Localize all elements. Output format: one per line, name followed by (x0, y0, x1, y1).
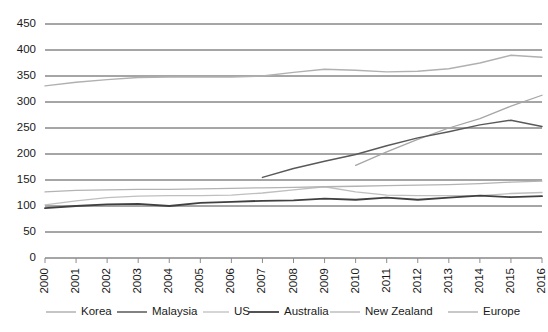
chart-canvas: 050100150200250300350400450 200020012002… (0, 0, 548, 332)
x-axis-tick-label: 2011 (380, 268, 392, 293)
x-axis-tick-label: 2012 (411, 268, 423, 294)
legend-label-korea: Korea (81, 305, 112, 317)
y-axis-labels-group: 050100150200250300350400450 (17, 17, 36, 263)
legend-label-australia: Australia (284, 305, 329, 317)
y-axis-tick-label: 300 (17, 95, 36, 107)
x-axis-tick-label: 2008 (287, 268, 299, 294)
x-axis-tick-label: 2003 (131, 268, 143, 294)
x-axis-tick-label: 2002 (100, 268, 112, 294)
x-axis-tick-label: 2009 (318, 268, 330, 294)
y-axis-tick-label: 350 (17, 69, 36, 81)
y-axis-tick-label: 100 (17, 199, 36, 211)
x-axis-tick-label: 2010 (349, 268, 361, 294)
y-axis-tick-label: 50 (23, 225, 36, 237)
y-axis-tick-label: 0 (30, 251, 36, 263)
gridlines-group (45, 24, 542, 258)
x-axis-tick-label: 2015 (504, 268, 516, 294)
x-axis-tick-label: 2013 (442, 268, 454, 294)
x-axis-tick-label: 2001 (69, 268, 81, 294)
series-line-korea (356, 95, 542, 165)
y-axis-tick-label: 150 (17, 173, 36, 185)
y-axis-tick-label: 250 (17, 121, 36, 133)
chart-legend: KoreaMalaysiaUSAustraliaNew ZealandEurop… (46, 305, 520, 317)
line-chart: 050100150200250300350400450 200020012002… (0, 0, 548, 332)
legend-label-europe: Europe (483, 305, 520, 317)
series-line-malaysia (262, 120, 542, 177)
y-axis-tick-label: 200 (17, 147, 36, 159)
legend-label-new-zealand: New Zealand (365, 305, 433, 317)
y-axis-tick-label: 450 (17, 17, 36, 29)
x-axis-tick-label: 2014 (473, 267, 485, 293)
legend-label-us: US (234, 305, 250, 317)
x-axis-tick-label: 2007 (255, 268, 267, 294)
series-group (45, 55, 542, 208)
x-axis-tick-label: 2016 (535, 268, 547, 294)
x-axis-labels-group: 2000200120022003200420052006200720082009… (38, 267, 547, 293)
legend-label-malaysia: Malaysia (152, 305, 198, 317)
x-axis-tick-label: 2000 (38, 268, 50, 294)
x-axis-tick-label: 2006 (224, 268, 236, 294)
y-axis-tick-label: 400 (17, 43, 36, 55)
x-axis-ticks-group (45, 258, 542, 263)
series-line-europe (45, 55, 542, 86)
x-axis-tick-label: 2005 (193, 268, 205, 294)
x-axis-tick-label: 2004 (162, 267, 174, 293)
